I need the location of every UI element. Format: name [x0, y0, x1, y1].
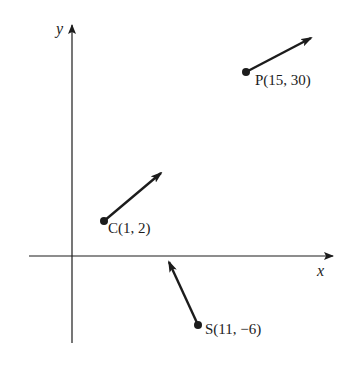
- point-p-dot: [242, 68, 250, 76]
- x-axis-label: x: [316, 262, 324, 279]
- vector-diagram: x y P(15, 30) C(1, 2) S(11, −6): [0, 0, 348, 367]
- vector-p: P(15, 30): [242, 38, 311, 89]
- point-p-label: P(15, 30): [255, 72, 311, 89]
- point-c-label: C(1, 2): [108, 220, 151, 237]
- vector-c: C(1, 2): [100, 173, 161, 237]
- point-c-dot: [100, 217, 108, 225]
- vector-s-arrow: [169, 262, 198, 325]
- point-s-dot: [194, 321, 202, 329]
- vector-s: S(11, −6): [169, 262, 261, 338]
- y-axis-label: y: [54, 20, 64, 38]
- vector-p-arrow: [246, 38, 311, 72]
- point-s-label: S(11, −6): [205, 321, 261, 338]
- vector-c-arrow: [104, 173, 161, 221]
